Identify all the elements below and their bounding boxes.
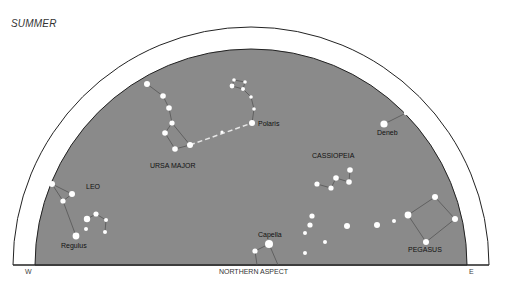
aspect-label: NORTHERN ASPECT: [0, 268, 507, 275]
east-label: E: [469, 268, 474, 275]
label-regulus: Regulus: [61, 242, 87, 250]
label-leo: LEO: [86, 183, 101, 190]
label-deneb: Deneb: [377, 129, 398, 136]
label-polaris: Polaris: [258, 120, 280, 127]
star-chart: URSA MAJOR CASSIOPEIA LEO PEGASUS Polari…: [0, 0, 507, 290]
label-ursa-major: URSA MAJOR: [150, 162, 196, 169]
label-pegasus: PEGASUS: [408, 246, 442, 253]
label-cassiopeia: CASSIOPEIA: [312, 152, 355, 159]
label-capella: Capella: [258, 231, 282, 239]
